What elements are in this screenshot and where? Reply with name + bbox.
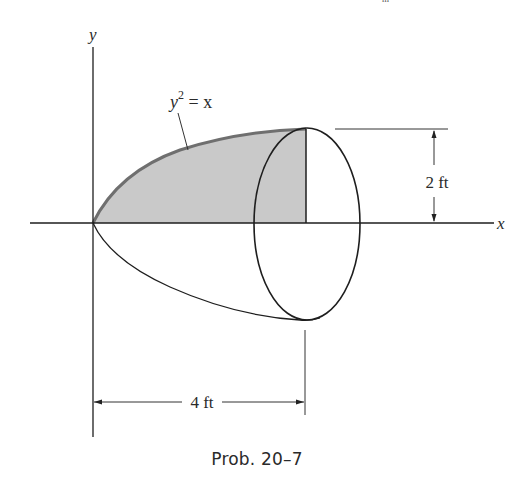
arrowhead-right-icon <box>296 400 304 405</box>
equation-base: y <box>168 92 178 112</box>
y-axis-label: y <box>87 25 97 44</box>
equation-leader-line <box>178 113 188 150</box>
lower-parabola-curve <box>93 223 320 320</box>
length-dimension-label: 4 ft <box>190 393 213 412</box>
arrowhead-left-icon <box>94 400 102 405</box>
height-dimension-label: 2 ft <box>425 173 448 192</box>
arrowhead-up-icon <box>432 130 437 138</box>
end-disk-ellipse <box>254 128 360 320</box>
equation-rest: = x <box>184 92 212 112</box>
arrowhead-down-icon <box>432 214 437 222</box>
x-axis-label: x <box>496 214 505 233</box>
equation-label: y2 = x <box>168 88 212 112</box>
paraboloid-diagram: y x y2 = x 2 ft 4 ft <box>0 0 529 489</box>
figure-caption: Prob. 20–7 <box>0 449 514 469</box>
